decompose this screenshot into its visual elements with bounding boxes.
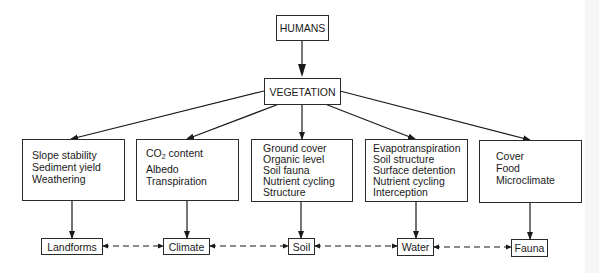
climate-attribute-box: CO2 content Albedo Transpiration: [136, 139, 239, 201]
attr-line: Cover: [496, 150, 581, 162]
attr-line: Microclimate: [496, 174, 581, 186]
node-water: Water: [397, 238, 434, 256]
attr-line: Albedo: [146, 163, 238, 175]
node-climate: Climate: [163, 238, 210, 255]
attr-line: Transpiration: [146, 175, 238, 187]
node-climate-label: Climate: [169, 241, 205, 253]
node-soil: Soil: [288, 238, 315, 255]
node-landforms: Landforms: [41, 238, 103, 255]
attr-line: Structure: [263, 187, 352, 198]
attr-line: Interception: [373, 187, 467, 198]
node-humans: HUMANS: [276, 15, 329, 41]
node-soil-label: Soil: [293, 241, 311, 253]
node-vegetation: VEGETATION: [264, 78, 341, 105]
soil-attribute-box: Ground cover Organic level Soil fauna Nu…: [251, 139, 353, 202]
node-humans-label: HUMANS: [280, 22, 326, 34]
node-water-label: Water: [402, 241, 430, 253]
diagram-canvas: HUMANS VEGETATION Slope stability Sedime…: [0, 0, 599, 273]
co2-prefix: CO: [146, 147, 162, 159]
landforms-attribute-box: Slope stability Sediment yield Weatherin…: [22, 139, 125, 201]
node-fauna-label: Fauna: [515, 242, 545, 254]
water-attribute-box: Evapotranspiration Soil structure Surfac…: [365, 139, 468, 202]
co2-suffix: content: [166, 147, 203, 159]
attr-line-co2: CO2 content: [146, 147, 238, 163]
node-vegetation-label: VEGETATION: [269, 86, 335, 98]
attr-line: Sediment yield: [32, 161, 124, 173]
attr-line: Slope stability: [32, 149, 124, 161]
attr-line: Food: [496, 162, 581, 174]
fauna-attribute-box: Cover Food Microclimate: [479, 140, 582, 203]
node-landforms-label: Landforms: [47, 241, 97, 253]
node-fauna: Fauna: [511, 239, 548, 257]
attr-line: Weathering: [32, 173, 124, 185]
